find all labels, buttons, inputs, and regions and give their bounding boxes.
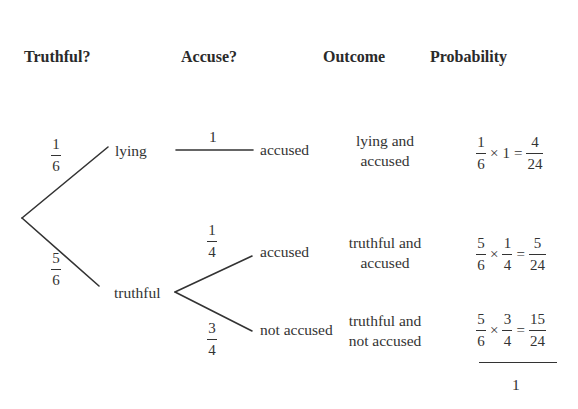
times-sign: ×: [489, 246, 499, 263]
equals-sign: =: [515, 246, 525, 263]
node-lying-accused: accused: [260, 141, 309, 159]
branch-truthful-accused: [175, 256, 252, 292]
calc-lying-accused: 1 6 × 1 = 4 24: [476, 134, 543, 172]
fraction: 1 4: [502, 235, 512, 273]
times-sign: ×: [489, 322, 499, 339]
calc-truthful-accused: 5 6 × 1 4 = 5 24: [476, 235, 546, 273]
equals-sign: =: [515, 322, 525, 339]
times-sign: ×: [489, 145, 499, 162]
fraction: 5 6: [476, 235, 486, 273]
node-truthful-not-accused: not accused: [260, 321, 333, 339]
fraction: 3 4: [502, 311, 512, 349]
outcome-truthful-not-accused: truthful and not accused: [330, 311, 440, 351]
fraction: 5 24: [529, 235, 546, 273]
prob-lying: 1 6: [51, 136, 61, 174]
fraction: 1 6: [476, 134, 486, 172]
outcome-lying-accused: lying and accused: [330, 131, 440, 171]
prob-truthful: 5 6: [51, 250, 61, 288]
prob-truthful-accused: 1 4: [207, 222, 217, 260]
total-probability: 1: [512, 376, 520, 394]
fraction: 5 6: [476, 311, 486, 349]
branch-root-lying: [22, 147, 108, 218]
node-lying: lying: [115, 142, 147, 160]
node-truthful-accused: accused: [260, 243, 309, 261]
fraction: 15 24: [529, 311, 546, 349]
prob-truthful-not-accused: 3 4: [207, 320, 217, 358]
calc-truthful-not-accused: 5 6 × 3 4 = 15 24: [476, 311, 546, 349]
prob-lying-accused: 1: [209, 128, 217, 146]
equals-sign: =: [513, 145, 523, 162]
node-truthful: truthful: [114, 284, 161, 302]
sum-line: [479, 362, 557, 363]
fraction: 4 24: [526, 134, 543, 172]
outcome-truthful-accused: truthful and accused: [330, 233, 440, 273]
